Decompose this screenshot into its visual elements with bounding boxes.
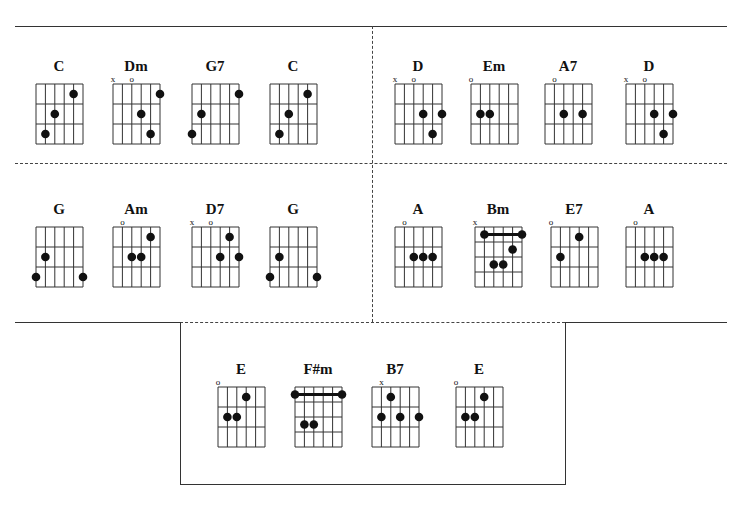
open-string-marker: o — [209, 217, 214, 227]
finger-dot — [137, 110, 146, 119]
open-string-marker: o — [643, 74, 648, 84]
fretboard-grid — [19, 74, 99, 154]
finger-dot — [225, 233, 234, 242]
chord-name: Bm — [458, 201, 538, 218]
fretboard-grid: o — [96, 217, 176, 297]
open-string-marker: o — [633, 217, 638, 227]
fretboard-grid: o — [528, 74, 608, 154]
finger-dot — [137, 253, 146, 262]
fretboard-grid: x — [355, 377, 435, 457]
open-string-marker: o — [402, 217, 407, 227]
top-border — [15, 26, 727, 27]
finger-dot — [275, 253, 284, 262]
chord-name: A7 — [528, 58, 608, 75]
fretboard-grid: o — [439, 377, 519, 457]
finger-dot — [508, 245, 517, 254]
open-string-marker: o — [454, 377, 459, 387]
finger-dot — [32, 273, 41, 282]
chord-name: Dm — [96, 58, 176, 75]
muted-string-marker: x — [190, 217, 195, 227]
muted-string-marker: x — [111, 74, 116, 84]
finger-dot — [578, 110, 587, 119]
finger-dot — [490, 260, 499, 269]
fretboard-grid — [253, 217, 333, 297]
finger-dot — [156, 90, 165, 99]
fretboard-grid: x — [458, 217, 538, 297]
finger-dot — [300, 420, 309, 429]
finger-dot — [338, 390, 347, 399]
open-string-marker: o — [549, 217, 554, 227]
finger-dot — [313, 273, 322, 282]
finger-dot — [650, 253, 659, 262]
finger-dot — [41, 253, 50, 262]
fretboard-grid: o — [609, 217, 689, 297]
fretboard-grid — [175, 74, 255, 154]
fretboard-grid — [19, 217, 99, 297]
finger-dot — [461, 413, 470, 422]
muted-string-marker: x — [393, 74, 398, 84]
fretboard-grid: o — [378, 217, 458, 297]
finger-dot — [235, 253, 244, 262]
chord-name: G7 — [175, 58, 255, 75]
lower-border-right — [565, 322, 727, 323]
finger-dot — [419, 110, 428, 119]
fretboard-grid: xo — [175, 217, 255, 297]
open-string-marker: o — [120, 217, 125, 227]
finger-dot — [146, 233, 155, 242]
muted-string-marker: x — [624, 74, 629, 84]
finger-dot — [285, 110, 294, 119]
chord-name: G — [253, 201, 333, 218]
bottom-box-bottom — [180, 484, 566, 485]
lower-border-center — [180, 322, 565, 323]
finger-dot — [650, 110, 659, 119]
chord-name: A — [609, 201, 689, 218]
finger-dot — [428, 253, 437, 262]
finger-dot — [410, 253, 419, 262]
finger-dot — [41, 130, 50, 139]
open-string-marker: o — [130, 74, 135, 84]
finger-dot — [560, 110, 569, 119]
chord-name: C — [19, 58, 99, 75]
fretboard-grid — [253, 74, 333, 154]
finger-dot — [377, 413, 386, 422]
finger-dot — [428, 130, 437, 139]
chord-name: G — [19, 201, 99, 218]
open-string-marker: o — [412, 74, 417, 84]
fretboard-grid: xo — [378, 74, 458, 154]
open-string-marker: o — [216, 377, 221, 387]
middle-divider — [15, 163, 727, 164]
lower-border-left — [15, 322, 180, 323]
finger-dot — [291, 390, 300, 399]
finger-dot — [275, 130, 284, 139]
finger-dot — [223, 413, 232, 422]
fretboard-grid: xo — [609, 74, 689, 154]
fretboard-grid: o — [454, 74, 534, 154]
finger-dot — [476, 110, 485, 119]
finger-dot — [659, 130, 668, 139]
finger-dot — [266, 273, 275, 282]
finger-dot — [233, 413, 242, 422]
finger-dot — [518, 230, 527, 239]
finger-dot — [188, 130, 197, 139]
chord-name: B7 — [355, 361, 435, 378]
finger-dot — [438, 110, 447, 119]
finger-dot — [415, 413, 424, 422]
center-divider — [372, 26, 373, 322]
chord-name: Am — [96, 201, 176, 218]
finger-dot — [235, 90, 244, 99]
finger-dot — [480, 230, 489, 239]
finger-dot — [556, 253, 565, 262]
chord-name: D7 — [175, 201, 255, 218]
fretboard-grid: o — [201, 377, 281, 457]
finger-dot — [51, 110, 60, 119]
fretboard-grid: xo — [96, 74, 176, 154]
finger-dot — [419, 253, 428, 262]
chord-name: A — [378, 201, 458, 218]
finger-dot — [242, 393, 251, 402]
finger-dot — [396, 413, 405, 422]
muted-string-marker: x — [379, 377, 384, 387]
fretboard-grid: o — [534, 217, 614, 297]
finger-dot — [216, 253, 225, 262]
chord-name: D — [609, 58, 689, 75]
finger-dot — [480, 393, 489, 402]
